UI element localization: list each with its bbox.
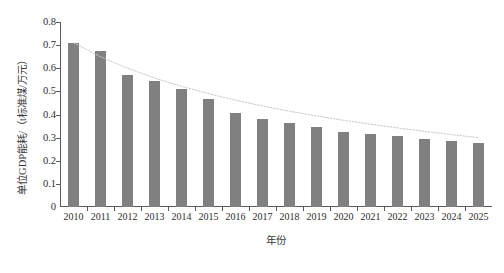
y-tick-label: 0.1	[30, 179, 56, 189]
y-tick-label: 0.4	[30, 110, 56, 120]
x-axis-title: 年份	[60, 232, 492, 247]
y-tick-label: 0	[30, 202, 56, 212]
trendline	[60, 22, 492, 207]
plot-area	[60, 22, 492, 207]
y-axis-tick-labels: 0.80.70.60.50.40.30.20.10	[30, 0, 56, 273]
x-axis-tick-labels: 2010201120122013201420152016201720182019…	[60, 210, 492, 226]
y-tick-label: 0.3	[30, 133, 56, 143]
y-tick-label: 0.8	[30, 17, 56, 27]
x-tick-label: 2025	[462, 210, 496, 224]
energy-intensity-bar-chart: 单位GDP能耗/（t标准煤/万元） 0.80.70.60.50.40.30.20…	[0, 0, 504, 273]
y-tick-label: 0.6	[30, 63, 56, 73]
y-tick-label: 0.2	[30, 156, 56, 166]
y-tick-label: 0.5	[30, 86, 56, 96]
y-tick-label: 0.7	[30, 40, 56, 50]
